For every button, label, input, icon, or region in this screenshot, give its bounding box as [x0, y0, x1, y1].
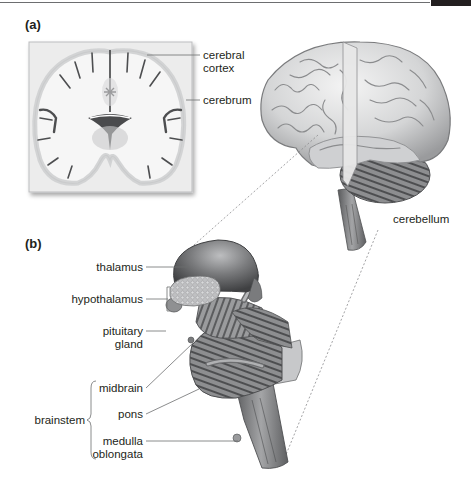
label-cerebral-cortex-line2: cortex	[203, 62, 245, 75]
label-medulla-line1: medulla	[92, 435, 143, 448]
label-medulla-line2: oblongata	[92, 448, 143, 461]
label-thalamus: thalamus	[96, 261, 143, 274]
label-cerebral-cortex-line1: cerebral	[203, 49, 245, 62]
panel-label-b: (b)	[25, 236, 42, 251]
label-pons: pons	[118, 408, 143, 421]
label-medulla-oblongata: medulla oblongata	[92, 435, 143, 461]
label-midbrain: midbrain	[99, 382, 143, 395]
label-cerebral-cortex: cerebral cortex	[203, 49, 245, 75]
label-pituitary-line2: gland	[103, 338, 143, 351]
label-hypothalamus: hypothalamus	[71, 293, 143, 306]
panel-label-a: (a)	[25, 17, 41, 32]
brainstem-detail	[166, 240, 302, 468]
coronal-section	[29, 42, 192, 192]
label-pituitary-gland: pituitary gland	[103, 325, 143, 351]
label-cerebrum: cerebrum	[203, 94, 252, 107]
label-pituitary-line1: pituitary	[103, 325, 143, 338]
label-brainstem: brainstem	[35, 414, 86, 427]
label-cerebellum: cerebellum	[393, 213, 449, 226]
